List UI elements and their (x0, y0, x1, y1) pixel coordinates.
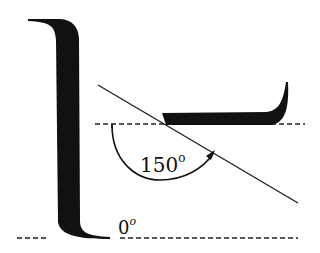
zero-angle-wetting-profile (28, 19, 110, 239)
angle-label-0: 0o (118, 215, 136, 238)
contact-angle-diagram: 150o 0o (0, 0, 320, 253)
high-angle-drop-profile (162, 82, 288, 125)
angle-label-150: 150o (140, 151, 185, 177)
tangent-line (98, 85, 298, 203)
